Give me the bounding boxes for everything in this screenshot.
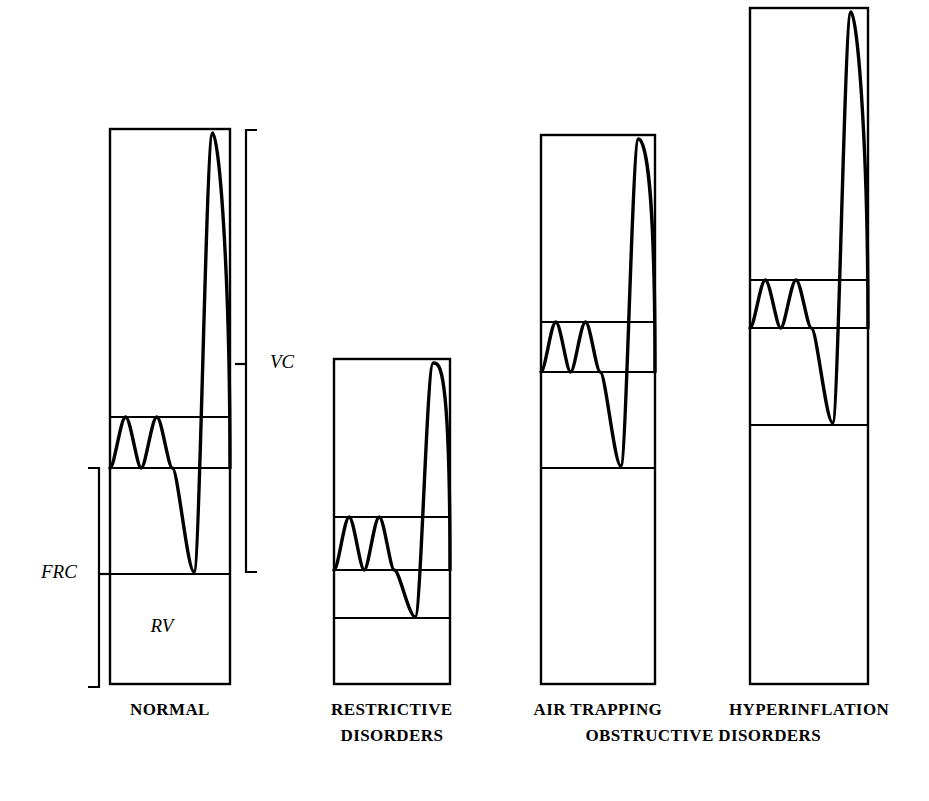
column-outline [110, 129, 230, 684]
rv-label: RV [151, 615, 174, 637]
spirogram-trace [750, 12, 868, 423]
bracket-spine [88, 468, 99, 687]
spirogram-trace [541, 139, 655, 466]
frc-label: FRC [41, 561, 77, 583]
column-outline [750, 8, 868, 684]
volume-column-1 [110, 129, 230, 684]
volume-column-2 [334, 359, 450, 684]
volume-column-3 [541, 135, 655, 684]
spirogram-trace [334, 363, 450, 617]
caption-restrictive-line2: DISORDERS [341, 726, 444, 746]
volume-column-4 [750, 8, 868, 684]
bracket-frc [88, 468, 110, 687]
caption-restrictive-line1: RESTRICTIVE [331, 700, 453, 720]
caption-obstructive-disorders: OBSTRUCTIVE DISORDERS [586, 726, 822, 746]
spirogram-trace [110, 133, 230, 572]
bracket-spine [246, 130, 257, 572]
bracket-vc [235, 130, 257, 572]
vc-label: VC [270, 351, 294, 373]
diagram-canvas [0, 0, 929, 801]
caption-hyperinflation: HYPERINFLATION [729, 700, 889, 720]
lung-volumes-figure: VC FRC RV NORMAL RESTRICTIVE DISORDERS A… [0, 0, 929, 801]
column-outline [541, 135, 655, 684]
caption-air-trapping: AIR TRAPPING [534, 700, 663, 720]
caption-normal: NORMAL [130, 700, 210, 720]
